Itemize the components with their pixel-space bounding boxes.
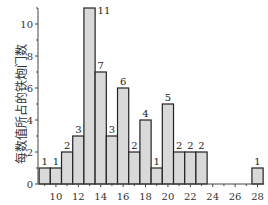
histogram-bar (84, 8, 95, 184)
histogram-bar (151, 168, 162, 184)
histogram-bar (196, 152, 207, 184)
histogram-bar (129, 152, 140, 184)
bar-value-label: 1 (154, 156, 160, 167)
histogram-bar (50, 168, 61, 184)
bar-value-label: 1 (53, 156, 59, 167)
bar-value-label: 5 (165, 92, 171, 103)
bar-value-label: 6 (120, 76, 126, 87)
histogram-bar (185, 152, 196, 184)
histogram-bar (106, 136, 117, 184)
bar-value-label: 1 (254, 156, 260, 167)
x-tick-label: 26 (229, 191, 242, 202)
x-tick-label: 18 (139, 191, 152, 202)
y-axis-label: 每数值所占的铁炮门数 (12, 14, 29, 194)
x-tick-label: 12 (72, 191, 85, 202)
histogram-bar (252, 168, 263, 184)
histogram-bar (162, 104, 173, 184)
bar-value-label: 11 (98, 5, 111, 16)
bar-value-label: 3 (75, 124, 81, 135)
x-tick-label: 16 (117, 191, 130, 202)
bar-value-label: 2 (64, 140, 70, 151)
x-tick-label: 20 (162, 191, 175, 202)
x-tick-label: 10 (50, 191, 63, 202)
histogram-bar (118, 88, 129, 184)
histogram-bar (62, 152, 73, 184)
histogram-bar (95, 72, 106, 184)
bar-value-label: 3 (109, 124, 115, 135)
histogram-bar (140, 120, 151, 184)
x-tick-label: 14 (94, 191, 107, 202)
histogram-bar (174, 152, 185, 184)
x-tick-label: 22 (184, 191, 197, 202)
histogram-bar (39, 168, 50, 184)
bar-value-label: 2 (198, 140, 204, 151)
bar-value-label: 2 (131, 140, 137, 151)
histogram-bar (73, 136, 84, 184)
x-tick-label: 24 (206, 191, 219, 202)
bar-value-label: 4 (142, 108, 148, 119)
bar-value-label: 2 (187, 140, 193, 151)
bar-value-label: 7 (98, 60, 104, 71)
histogram-chart: 1123117362415222102468101012141618202224… (0, 0, 268, 205)
x-tick-label: 28 (251, 191, 264, 202)
bar-value-label: 1 (42, 156, 48, 167)
bar-value-label: 2 (176, 140, 182, 151)
